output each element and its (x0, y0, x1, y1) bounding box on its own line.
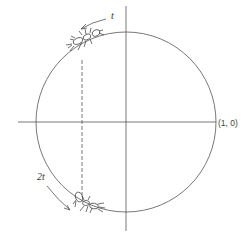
label-point-1-0: (1, 0) (218, 118, 238, 128)
ant-top-icon (66, 28, 104, 51)
label-t: t (111, 10, 114, 21)
ant-bottom-icon (73, 191, 105, 213)
unit-circle-diagram: t 2t (1, 0) (0, 0, 252, 243)
arc-arrow-t (81, 19, 106, 29)
label-2t: 2t (37, 171, 45, 182)
